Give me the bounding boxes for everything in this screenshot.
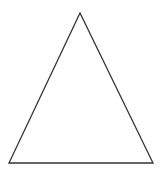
triangle-diagram	[0, 0, 163, 189]
triangle-shape	[9, 13, 153, 163]
diagram-canvas	[0, 0, 163, 189]
